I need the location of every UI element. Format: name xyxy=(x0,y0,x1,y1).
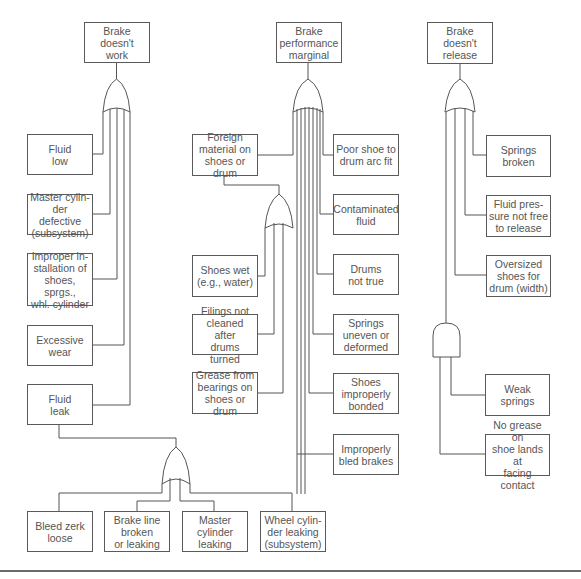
event-master-cylinder-defective: Master cylin- der defective (subsystem) xyxy=(27,194,93,235)
event-no-grease-on-shoe-lands: No grease on shoe lands at facing contac… xyxy=(485,434,550,476)
event-improperly-bled-brakes: Improperly bled brakes xyxy=(333,434,399,475)
event-springs-uneven: Springs uneven or deformed xyxy=(333,314,399,355)
event-shoes-improperly-bonded: Shoes improperly bonded xyxy=(333,373,399,414)
event-bleed-zerk-loose: Bleed zerk loose xyxy=(27,511,93,552)
event-springs-broken: Springs broken xyxy=(486,135,551,177)
event-contaminated-fluid: Contaminated fluid xyxy=(333,194,399,235)
event-weak-springs: Weak springs xyxy=(485,374,550,416)
event-foreign-material: Foreign material on shoes or drum xyxy=(192,134,258,176)
event-brake-doesnt-work: Brake doesn't work xyxy=(84,22,150,63)
event-brake-line-broken: Brake line broken or leaking xyxy=(104,511,170,552)
event-excessive-wear: Excessive wear xyxy=(27,325,93,366)
event-brake-performance-marginal: Brake performance marginal xyxy=(276,22,342,63)
or-gate-icon xyxy=(162,447,190,484)
event-shoes-wet: Shoes wet (e.g., water) xyxy=(192,255,258,297)
event-drums-not-true: Drums not true xyxy=(333,254,399,295)
event-poor-shoe-fit: Poor shoe to drum arc fit xyxy=(333,134,399,176)
bottom-rule xyxy=(0,570,581,572)
and-gate-icon xyxy=(433,323,460,357)
or-gate-icon xyxy=(445,79,475,112)
event-wheel-cylinder-leaking: Wheel cylin- der leaking (subsystem) xyxy=(260,511,326,552)
event-oversized-shoes: Oversized shoes for drum (width) xyxy=(486,255,551,297)
or-gate-icon xyxy=(293,79,323,112)
or-gate-icon xyxy=(265,194,293,228)
event-improper-installation: Improper in- stallation of shoes, sprgs.… xyxy=(27,253,93,306)
event-fluid-pressure-not-free: Fluid pres- sure not free to release xyxy=(486,195,551,237)
event-grease-from-bearings: Grease from bearings on shoes or drum xyxy=(192,372,258,414)
event-fluid-leak: Fluid leak xyxy=(27,384,93,425)
event-brake-doesnt-release: Brake doesn't release xyxy=(427,22,493,64)
or-gate-icon xyxy=(103,79,130,112)
event-filings-not-cleaned: Filings not cleaned after drums turned xyxy=(192,314,258,355)
event-fluid-low: Fluid low xyxy=(27,134,93,175)
event-master-cylinder-leaking: Master cylinder leaking xyxy=(182,511,248,552)
